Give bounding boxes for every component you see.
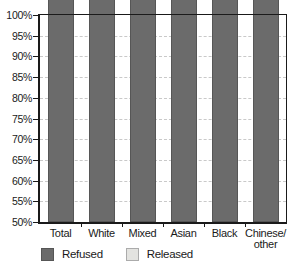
bar-refused-mixed [130, 0, 156, 222]
y-axis-label-85: 85% [1, 71, 32, 83]
y-axis-tick-85 [33, 77, 39, 78]
y-axis-label-80: 80% [1, 92, 32, 104]
legend-label-refused: Refused [62, 248, 103, 261]
legend-swatch-released [126, 248, 139, 261]
y-axis-tick-80 [33, 98, 39, 99]
legend-item-released: Released [126, 248, 193, 261]
x-axis-tick-5 [245, 222, 246, 227]
bar-refused-white [89, 0, 115, 222]
x-axis-label-chinese-other: Chinese/ other [240, 228, 292, 250]
y-axis-tick-50 [33, 222, 39, 223]
legend-label-released: Released [147, 248, 193, 261]
legend-item-refused: Refused [41, 248, 103, 261]
y-axis-tick-90 [33, 56, 39, 57]
bar-refused-total [48, 0, 74, 222]
y-axis-tick-100 [33, 15, 39, 16]
gridline-75 [40, 119, 286, 120]
gridline-70 [40, 139, 286, 140]
stacked-bar-chart: 100%95%90%85%80%75%70%65%60%55%50%TotalW… [0, 0, 293, 273]
y-axis-label-55: 55% [1, 195, 32, 207]
y-axis-label-50: 50% [1, 216, 32, 228]
bar-refused-chinese-other [253, 0, 279, 222]
y-axis-tick-75 [33, 119, 39, 120]
y-axis-label-90: 90% [1, 50, 32, 62]
gridline-95 [40, 36, 286, 37]
gridline-90 [40, 56, 286, 57]
y-axis-label-65: 65% [1, 154, 32, 166]
y-axis-tick-95 [33, 36, 39, 37]
y-axis-tick-65 [33, 160, 39, 161]
y-axis-label-75: 75% [1, 113, 32, 125]
y-axis-label-70: 70% [1, 133, 32, 145]
y-axis-label-100: 100% [1, 9, 32, 21]
gridline-60 [40, 181, 286, 182]
gridline-85 [40, 77, 286, 78]
x-axis-tick-2 [122, 222, 123, 227]
legend-swatch-refused [41, 248, 54, 261]
y-axis-label-60: 60% [1, 175, 32, 187]
y-axis-tick-55 [33, 201, 39, 202]
x-axis-tick-1 [81, 222, 82, 227]
gridline-55 [40, 201, 286, 202]
y-axis-tick-60 [33, 181, 39, 182]
gridline-65 [40, 160, 286, 161]
gridline-80 [40, 98, 286, 99]
y-axis-label-95: 95% [1, 30, 32, 42]
plot-top-border [40, 14, 287, 15]
bar-refused-asian [171, 0, 197, 222]
plot-right-border [286, 15, 287, 222]
y-axis-tick-70 [33, 139, 39, 140]
bar-refused-black [212, 0, 238, 222]
x-axis-tick-3 [163, 222, 164, 227]
x-axis-tick-4 [204, 222, 205, 227]
legend: RefusedReleased [41, 248, 207, 261]
